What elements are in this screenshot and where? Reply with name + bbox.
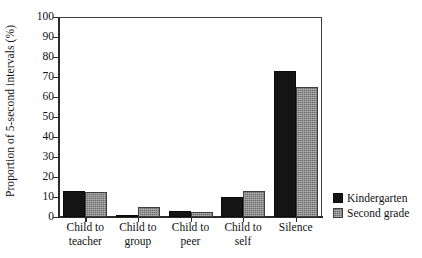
x-axis-category-label-line2: self [217,235,270,249]
bar-kindergarten[interactable] [63,191,85,217]
x-axis-category-label: Silence [269,221,322,235]
x-axis-category-label-line2: peer [164,235,217,249]
y-axis-tick-mark [53,157,59,158]
y-axis-tick-labels: 1009080706050403020100 [22,17,54,217]
bar-series-container [59,17,322,217]
legend-item[interactable]: Second grade [333,205,421,220]
y-axis-tick-label: 100 [37,11,54,23]
bar-second-grade[interactable] [243,191,265,217]
bar-group [116,17,160,217]
bar-group [221,17,265,217]
x-axis-category-label: Child topeer [164,221,217,248]
bar-kindergarten[interactable] [116,215,138,217]
y-axis-tick-mark [53,77,59,78]
x-axis-tick-mark [296,217,297,222]
bar-kindergarten[interactable] [221,197,243,217]
x-axis-category-label-line1: Child to [67,221,104,233]
bar-second-grade[interactable] [138,207,160,217]
y-axis-tick-mark [53,57,59,58]
y-axis-tick-mark [53,197,59,198]
kindergarten-swatch [333,193,343,203]
y-axis-tick-mark [53,117,59,118]
bar-chart-figure: Proportion of 5-second intervals (%) 100… [0,0,422,258]
y-axis-tick-mark [53,97,59,98]
x-axis-category-label-line1: Child to [119,221,156,233]
x-axis-category-label: Child toself [217,221,270,248]
x-axis-category-label-line1: Silence [279,221,313,233]
legend-item[interactable]: Kindergarten [333,190,421,205]
x-axis-tick-mark [138,217,139,222]
x-axis-category-label-line1: Child to [224,221,261,233]
bar-second-grade[interactable] [296,87,318,217]
x-axis-category-label-line1: Child to [172,221,209,233]
y-axis-tick-mark [53,217,59,218]
x-axis-category-label: Child toteacher [59,221,112,248]
chart-legend: KindergartenSecond grade [333,190,421,220]
y-axis-tick-mark [53,177,59,178]
y-axis-title: Proportion of 5-second intervals (%) [4,25,16,197]
y-axis-tick-mark [53,137,59,138]
x-axis-tick-mark [85,217,86,222]
second-grade-swatch [333,208,343,218]
bar-group [169,17,213,217]
y-axis-tick-mark [53,37,59,38]
bar-group [274,17,318,217]
bar-group [63,17,107,217]
bar-kindergarten[interactable] [169,211,191,217]
x-axis-tick-labels: Child toteacherChild togroupChild topeer… [59,221,322,255]
bar-kindergarten[interactable] [274,71,296,217]
x-axis-category-label-line2: teacher [59,235,112,249]
x-axis-tick-mark [191,217,192,222]
y-axis-title-container: Proportion of 5-second intervals (%) [0,0,20,222]
x-axis-category-label-line2: group [112,235,165,249]
x-axis-tick-mark [243,217,244,222]
bar-second-grade[interactable] [85,192,107,217]
legend-item-label: Second grade [347,207,409,219]
bar-second-grade[interactable] [191,212,213,217]
y-axis-tick-mark [53,17,59,18]
x-axis-category-label: Child togroup [112,221,165,248]
legend-item-label: Kindergarten [347,192,407,204]
